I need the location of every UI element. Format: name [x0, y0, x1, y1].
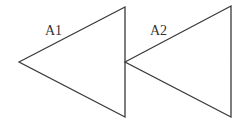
label-a1: A1	[45, 23, 62, 38]
label-a2: A2	[150, 23, 167, 38]
triangle-a1	[19, 7, 125, 117]
triangles-diagram: A1 A2	[0, 0, 241, 123]
triangle-a2	[125, 6, 231, 117]
